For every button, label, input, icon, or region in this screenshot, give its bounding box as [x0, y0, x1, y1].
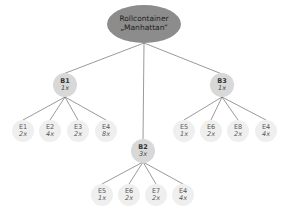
part-node: E6 2x [118, 184, 140, 206]
part-quantity: 4x [262, 131, 270, 138]
part-quantity: 2x [125, 195, 133, 202]
part-node: E6 2x [200, 120, 222, 142]
part-node: E2 4x [39, 120, 61, 142]
part-quantity: 1x [180, 131, 188, 138]
assembly-node-b1: B1 1x [53, 73, 77, 97]
part-quantity: 1x [98, 195, 106, 202]
part-node: E5 1x [173, 120, 195, 142]
part-node: E4 8x [95, 120, 117, 142]
part-quantity: 4x [46, 131, 54, 138]
part-quantity: 4x [179, 195, 187, 202]
part-quantity: 2x [234, 131, 242, 138]
part-node: E3 2x [67, 120, 89, 142]
part-quantity: 2x [74, 131, 82, 138]
part-quantity: 8x [102, 131, 110, 138]
assembly-quantity: 1x [218, 85, 226, 92]
root-title-line2: „Manhattan“ [120, 24, 168, 33]
assembly-quantity: 3x [139, 151, 147, 158]
part-node: E5 1x [91, 184, 113, 206]
assembly-node-b2: B2 3x [131, 139, 155, 163]
assembly-node-b3: B3 1x [210, 73, 234, 97]
part-node: E4 4x [255, 120, 277, 142]
part-quantity: 2x [207, 131, 215, 138]
assembly-quantity: 1x [61, 85, 69, 92]
part-node: E1 2x [12, 120, 34, 142]
part-node: E4 4x [172, 184, 194, 206]
part-node: E7 2x [145, 184, 167, 206]
root-node-rollcontainer: Rollcontainer „Manhattan“ [107, 5, 181, 43]
part-quantity: 2x [152, 195, 160, 202]
part-node: E8 2x [227, 120, 249, 142]
part-quantity: 2x [19, 131, 27, 138]
